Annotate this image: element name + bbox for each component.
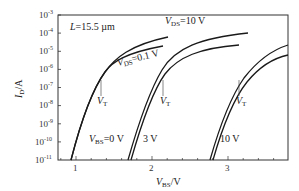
x-axis-title: VBS/V xyxy=(156,176,181,189)
y-tick-label: 10-6 xyxy=(39,63,53,74)
vt-label: VT xyxy=(97,95,108,108)
vbs0-label: VBS=0 V xyxy=(89,133,125,146)
y-tick-label: 10-3 xyxy=(39,9,53,20)
y-tick-label: 10-10 xyxy=(35,136,52,147)
y-axis-labels: 10-3 10-4 10-5 10-6 10-7 10-8 10-9 10-10… xyxy=(35,9,53,165)
y-tick-label: 10-11 xyxy=(35,154,52,165)
y-tick-label: 10-4 xyxy=(39,27,53,38)
vds-high-label: VDS=10 V xyxy=(165,15,206,28)
x-axis-ticks xyxy=(61,156,274,160)
y-tick-label: 10-9 xyxy=(39,118,53,129)
vt-label: VT xyxy=(160,95,171,108)
x-tick-label: 3 xyxy=(225,163,230,173)
channel-length-label: L=15.5 µm xyxy=(69,21,115,32)
y-tick-label: 10-7 xyxy=(39,81,53,92)
vt-label: VT xyxy=(236,95,247,108)
vbs3-label: 3 V xyxy=(143,133,158,144)
chart-figure: 10-3 10-4 10-5 10-6 10-7 10-8 10-9 10-10… xyxy=(0,0,299,191)
vbs10-label: 10 V xyxy=(220,133,240,144)
x-tick-label: 2 xyxy=(149,163,154,173)
y-tick-label: 10-5 xyxy=(39,45,53,56)
y-tick-label: 10-8 xyxy=(39,99,53,110)
x-tick-label: 1 xyxy=(73,163,78,173)
y-axis-title: ID/A xyxy=(13,79,26,99)
